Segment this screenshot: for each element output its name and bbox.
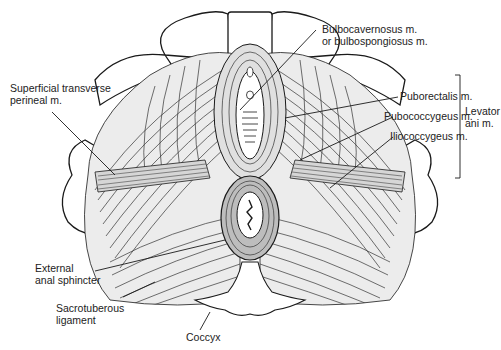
label-levator-ani: Levator ani m. <box>465 105 500 129</box>
perineum-diagram <box>0 0 501 350</box>
label-external-anal-sphincter: External anal sphincter <box>35 262 100 286</box>
label-pubococcygeus: Pubococcygeus m. <box>384 110 473 122</box>
label-coccyx: Coccyx <box>186 331 220 343</box>
label-puborectalis: Puborectalis m. <box>400 90 472 102</box>
label-superficial-transverse-perineal: Superficial transverse perineal m. <box>10 82 111 106</box>
label-bulbocavernosus: Bulbocavernosus m. or bulbospongiosus m. <box>322 23 428 47</box>
label-iliococcygeus: Iliococcygeus m. <box>390 130 468 142</box>
bulbospongiosus-muscle <box>214 44 286 180</box>
label-sacrotuberous-ligament: Sacrotuberous ligament <box>56 302 124 326</box>
